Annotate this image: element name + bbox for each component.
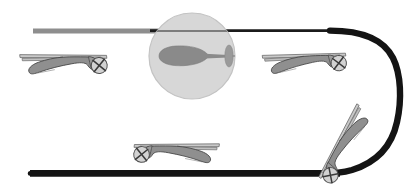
lens-tail-rotor — [225, 45, 233, 67]
magnifier-circle — [148, 13, 248, 99]
lens-crosshair-icon — [239, 51, 248, 61]
helicopter-top-right — [262, 44, 348, 81]
track-lower-taper — [30, 173, 52, 174]
helicopter-bottom-left — [133, 135, 220, 170]
helicopter-top-left — [20, 46, 109, 82]
flight-path-diagram — [0, 0, 410, 191]
diagram-canvas — [0, 0, 410, 191]
